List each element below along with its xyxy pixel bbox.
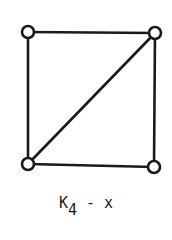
edge-v3-v2: [28, 33, 155, 164]
vertex-v2: [149, 27, 161, 39]
caption-rest: - x: [77, 194, 113, 212]
caption-base: K: [59, 194, 68, 212]
caption-subscript: 4: [68, 201, 77, 219]
edge-v2-v4: [154, 33, 155, 167]
vertex-v4: [148, 161, 160, 173]
graph-caption: K4 - x: [0, 194, 172, 212]
vertex-v3: [22, 158, 34, 170]
graph-edges: [28, 32, 155, 167]
edge-v1-v2: [28, 32, 155, 33]
vertex-v1: [22, 26, 34, 38]
edge-v4-v3: [28, 164, 154, 167]
